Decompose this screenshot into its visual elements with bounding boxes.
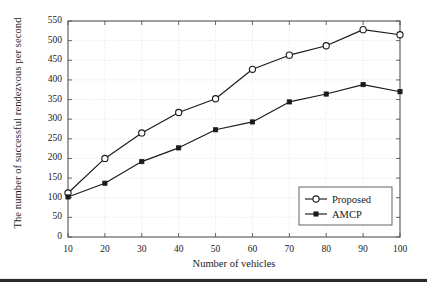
legend-entry-label: AMCP <box>332 209 362 220</box>
x-tick-label: 40 <box>164 244 194 254</box>
legend-entry-label: Proposed <box>332 194 372 205</box>
footer-rule <box>0 278 427 282</box>
x-tick-label: 80 <box>311 244 341 254</box>
x-tick-label: 90 <box>348 244 378 254</box>
y-tick-label: 200 <box>32 152 62 162</box>
x-tick-label: 70 <box>274 244 304 254</box>
x-tick-label: 20 <box>90 244 120 254</box>
y-tick-label: 50 <box>32 211 62 221</box>
plot-area: ProposedAMCP <box>0 0 427 285</box>
y-tick-label: 350 <box>32 94 62 104</box>
data-series <box>65 27 403 200</box>
x-tick-label: 100 <box>385 244 415 254</box>
x-tick-label: 30 <box>127 244 157 254</box>
y-tick-label: 150 <box>32 172 62 182</box>
y-tick-label: 0 <box>32 231 62 241</box>
x-tick-label: 50 <box>201 244 231 254</box>
y-tick-label: 450 <box>32 54 62 64</box>
y-tick-label: 250 <box>32 133 62 143</box>
y-tick-label: 300 <box>32 113 62 123</box>
y-tick-label: 500 <box>32 35 62 45</box>
y-tick-label: 100 <box>32 192 62 202</box>
x-tick-label: 60 <box>237 244 267 254</box>
y-tick-label: 550 <box>32 15 62 25</box>
x-tick-label: 10 <box>53 244 83 254</box>
chart-figure: The number of successful rendezvous per … <box>0 0 427 285</box>
y-tick-label: 400 <box>32 74 62 84</box>
chart-legend[interactable]: ProposedAMCP <box>299 187 392 225</box>
